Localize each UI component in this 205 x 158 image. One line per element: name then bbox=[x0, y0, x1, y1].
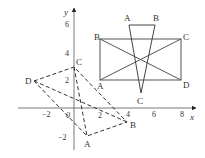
dashed-quadrilateral bbox=[34, 67, 127, 136]
x-tick-label: 6 bbox=[152, 110, 156, 119]
y-tick-label: −2 bbox=[58, 133, 67, 142]
x-tick-label: −2 bbox=[42, 110, 51, 119]
rectangle-vertex-labels: B C D A bbox=[94, 32, 190, 91]
vertex-label-c: C bbox=[183, 32, 189, 42]
x-tick-label: 2 bbox=[98, 111, 102, 120]
vertex-label-c: C bbox=[76, 57, 82, 67]
vertex-label-b: B bbox=[130, 120, 136, 130]
y-tick-label: 2 bbox=[65, 76, 69, 85]
x-tick-label: 4 bbox=[126, 110, 130, 119]
quadrilateral-vertex-labels: D C B A bbox=[25, 57, 136, 149]
vertex-label-b: B bbox=[94, 32, 100, 42]
vertex-label-d: D bbox=[25, 76, 32, 86]
vertex-label-c: C bbox=[137, 96, 143, 106]
y-axis-label: y bbox=[63, 7, 68, 17]
vertex-label-a: A bbox=[124, 13, 131, 23]
diagonal-ca bbox=[74, 67, 87, 136]
y-tick-label: 6 bbox=[65, 20, 69, 29]
x-tick-label: 8 bbox=[180, 110, 184, 119]
rectangle bbox=[100, 39, 181, 80]
vertex-label-a: A bbox=[84, 139, 91, 149]
x-axis-label: x bbox=[189, 112, 194, 122]
vertex-label-b: B bbox=[153, 13, 159, 23]
y-tick-label: 4 bbox=[65, 49, 69, 58]
coordinate-diagram: x y 0 −2 2 4 6 8 6 4 2 −2 D C B A B C D … bbox=[0, 0, 205, 158]
vertex-label-d: D bbox=[183, 80, 190, 90]
vertex-label-a: A bbox=[97, 81, 104, 91]
